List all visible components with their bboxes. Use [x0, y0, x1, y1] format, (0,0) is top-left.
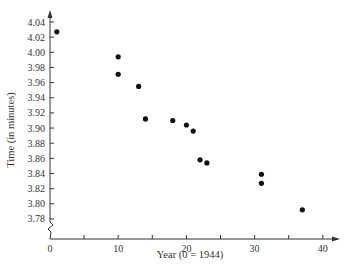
data-point	[170, 118, 175, 123]
data-point	[116, 72, 121, 77]
data-point	[54, 29, 59, 34]
data-point	[204, 160, 209, 165]
scatter-chart: 3.783.803.823.843.863.883.903.923.943.96…	[0, 0, 346, 268]
data-point	[116, 54, 121, 59]
data-point	[191, 128, 196, 133]
data-point	[136, 84, 141, 89]
y-tick-label: 3.98	[28, 62, 46, 73]
x-tick-label: 40	[318, 243, 328, 254]
x-tick-label: 10	[113, 243, 123, 254]
axes	[48, 10, 341, 242]
data-point	[259, 172, 264, 177]
y-axis-arrow-icon	[48, 10, 53, 18]
data-points	[54, 29, 305, 212]
y-tick-label: 4.00	[28, 47, 46, 58]
y-tick-label: 3.78	[28, 213, 46, 224]
data-point	[143, 116, 148, 121]
data-point	[197, 157, 202, 162]
y-tick-label: 3.86	[28, 153, 46, 164]
y-tick-label: 3.82	[28, 183, 46, 194]
y-tick-label: 4.02	[28, 32, 46, 43]
y-axis-title: Time (in minutes)	[5, 92, 17, 168]
y-tick-label: 4.04	[28, 17, 46, 28]
y-tick-label: 3.80	[28, 198, 46, 209]
axis-break-icon	[48, 222, 53, 239]
data-point	[300, 207, 305, 212]
y-tick-label: 3.96	[28, 77, 46, 88]
x-tick-label: 30	[250, 243, 260, 254]
y-tick-label: 3.88	[28, 138, 46, 149]
y-tick-label: 3.84	[28, 168, 46, 179]
x-axis-title: Year (0 = 1944)	[157, 249, 224, 261]
data-point	[184, 122, 189, 127]
y-tick-label: 3.90	[28, 123, 46, 134]
y-tick-label: 3.94	[28, 92, 46, 103]
data-point	[259, 181, 264, 186]
x-axis-arrow-icon	[332, 237, 340, 242]
y-tick-label: 3.92	[28, 107, 46, 118]
x-tick-label: 0	[48, 243, 53, 254]
